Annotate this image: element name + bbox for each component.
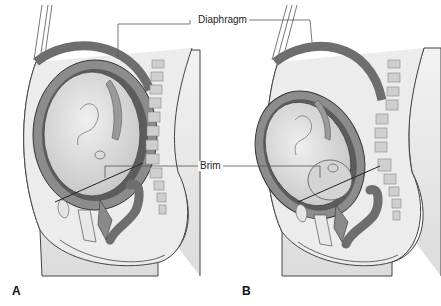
pregnancy-illustration xyxy=(0,0,441,306)
panel-label-b: B xyxy=(242,284,251,298)
panel-label-a: A xyxy=(12,284,21,298)
diaphragm-label: Diaphragm xyxy=(196,15,249,25)
figure-b xyxy=(235,5,441,276)
figure-a xyxy=(24,5,200,276)
brim-label: Brim xyxy=(198,161,223,171)
